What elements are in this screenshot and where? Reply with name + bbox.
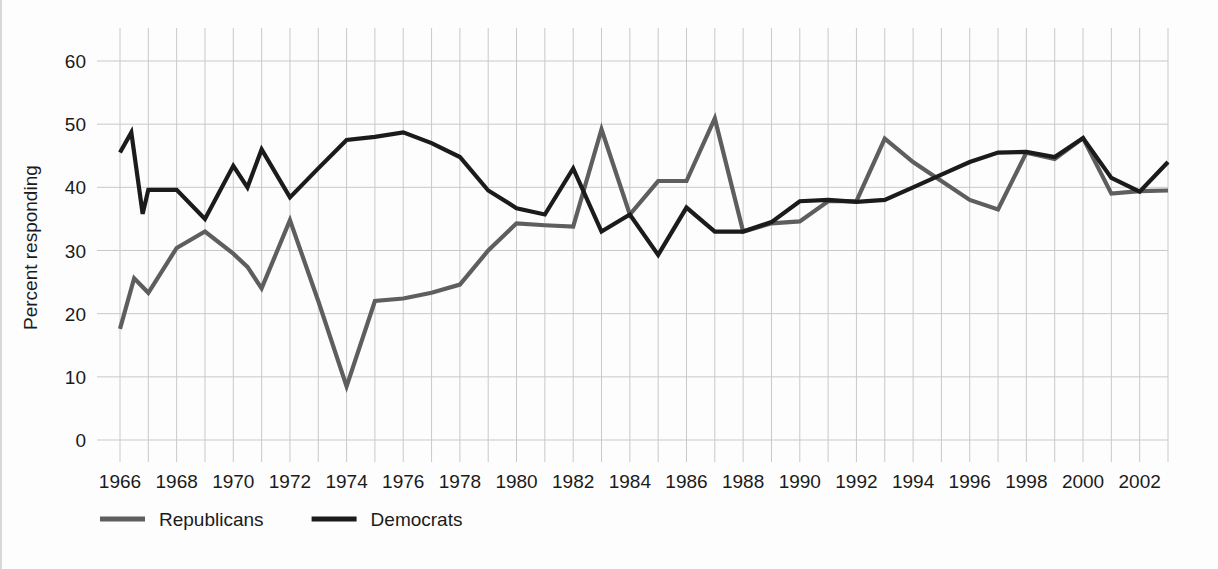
legend-label-republicans: Republicans <box>159 509 264 530</box>
x-tick-label: 1992 <box>835 471 877 492</box>
y-tick-label: 60 <box>65 51 86 72</box>
x-tick-label: 1976 <box>382 471 424 492</box>
x-tick-label: 1990 <box>779 471 821 492</box>
x-tick-label: 1988 <box>722 471 764 492</box>
x-tick-label: 1982 <box>552 471 594 492</box>
x-tick-label: 1998 <box>1005 471 1047 492</box>
x-tick-label: 1978 <box>439 471 481 492</box>
y-axis-ticks: 0102030405060 <box>65 51 86 451</box>
y-tick-label: 10 <box>65 367 86 388</box>
x-tick-label: 1970 <box>212 471 254 492</box>
chart-figure: 0102030405060 19661968197019721974197619… <box>0 0 1218 569</box>
grid-vertical-lines <box>120 28 1168 462</box>
x-tick-label: 2002 <box>1119 471 1161 492</box>
x-tick-label: 1966 <box>99 471 141 492</box>
series-line-democrats <box>120 132 1168 255</box>
y-tick-label: 30 <box>65 241 86 262</box>
y-tick-label: 50 <box>65 114 86 135</box>
grid-horizontal-lines <box>97 61 1168 440</box>
x-tick-label: 1994 <box>892 471 935 492</box>
y-tick-label: 20 <box>65 304 86 325</box>
x-axis-ticks: 1966196819701972197419761978198019821984… <box>99 471 1161 492</box>
x-tick-label: 2000 <box>1062 471 1104 492</box>
line-chart: 0102030405060 19661968197019721974197619… <box>0 0 1218 569</box>
y-axis-title: Percent responding <box>20 165 41 330</box>
x-tick-label: 1984 <box>609 471 652 492</box>
series-lines-group <box>120 118 1168 386</box>
y-tick-label: 40 <box>65 177 86 198</box>
chart-legend: RepublicansDemocrats <box>100 509 462 530</box>
x-tick-label: 1972 <box>269 471 311 492</box>
x-tick-label: 1968 <box>156 471 198 492</box>
y-tick-label: 0 <box>75 430 86 451</box>
x-tick-label: 1980 <box>495 471 537 492</box>
x-tick-label: 1996 <box>949 471 991 492</box>
legend-label-democrats: Democrats <box>371 509 463 530</box>
x-tick-label: 1986 <box>665 471 707 492</box>
x-tick-label: 1974 <box>325 471 368 492</box>
series-line-republicans <box>120 118 1168 386</box>
